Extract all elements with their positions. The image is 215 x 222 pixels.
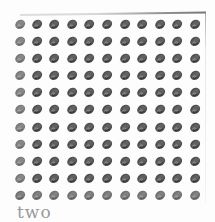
grid-cell bbox=[64, 120, 82, 137]
grid-cell bbox=[11, 137, 29, 154]
shell-icon bbox=[171, 122, 183, 133]
grid-cell bbox=[169, 17, 187, 34]
shell-icon bbox=[154, 19, 166, 30]
grid-cell bbox=[117, 34, 135, 51]
shell-icon bbox=[48, 173, 60, 184]
grid-cell bbox=[152, 171, 170, 188]
shell-icon bbox=[189, 104, 201, 115]
grid-cell bbox=[152, 17, 170, 34]
grid-cell bbox=[152, 137, 170, 154]
shell-icon bbox=[136, 156, 148, 167]
grid-cell bbox=[134, 68, 152, 85]
grid-cell bbox=[81, 34, 99, 51]
shell-icon bbox=[66, 70, 78, 81]
shell-icon bbox=[48, 53, 60, 64]
shell-icon bbox=[31, 104, 43, 115]
shell-icon bbox=[154, 122, 166, 133]
grid-cell bbox=[169, 120, 187, 137]
shell-icon bbox=[83, 19, 95, 30]
grid-cell bbox=[29, 171, 47, 188]
shell-icon bbox=[101, 104, 113, 115]
grid-cell bbox=[134, 102, 152, 119]
grid-cell bbox=[134, 120, 152, 137]
shell-icon bbox=[171, 156, 183, 167]
shell-icon bbox=[83, 139, 95, 150]
shell-icon bbox=[154, 53, 166, 64]
shell-icon bbox=[136, 70, 148, 81]
shell-icon bbox=[31, 70, 43, 81]
shell-icon bbox=[119, 70, 131, 81]
grid-cell bbox=[81, 171, 99, 188]
grid-cell bbox=[46, 51, 64, 68]
shell-icon bbox=[14, 156, 26, 167]
grid-cell bbox=[99, 154, 117, 171]
grid-cell bbox=[187, 102, 205, 119]
shell-icon bbox=[119, 19, 131, 30]
grid-cell bbox=[152, 120, 170, 137]
grid-cell bbox=[46, 154, 64, 171]
grid-cell bbox=[117, 137, 135, 154]
shell-icon bbox=[66, 53, 78, 64]
grid-cell bbox=[169, 188, 187, 205]
shell-icon bbox=[66, 87, 78, 98]
shell-icon bbox=[189, 70, 201, 81]
grid-cell bbox=[46, 17, 64, 34]
shell-icon bbox=[119, 87, 131, 98]
shell-icon bbox=[14, 122, 26, 133]
grid-cell bbox=[64, 68, 82, 85]
shell-icon bbox=[31, 139, 43, 150]
grid-cell bbox=[117, 17, 135, 34]
shell-icon bbox=[48, 190, 60, 201]
grid-cell bbox=[169, 51, 187, 68]
grid-cell bbox=[64, 85, 82, 102]
shell-icon bbox=[189, 19, 201, 30]
grid-cell bbox=[134, 34, 152, 51]
grid-cell bbox=[99, 102, 117, 119]
shell-icon bbox=[31, 87, 43, 98]
grid-cell bbox=[81, 120, 99, 137]
grid-cell bbox=[169, 154, 187, 171]
shell-icon bbox=[101, 156, 113, 167]
grid-cell bbox=[152, 188, 170, 205]
grid-cell bbox=[64, 34, 82, 51]
grid-cell bbox=[46, 102, 64, 119]
shell-icon bbox=[136, 173, 148, 184]
grid-cell bbox=[29, 102, 47, 119]
shell-icon bbox=[14, 70, 26, 81]
shell-icon bbox=[66, 19, 78, 30]
grid-cell bbox=[99, 137, 117, 154]
shell-icon bbox=[154, 70, 166, 81]
shell-icon bbox=[171, 173, 183, 184]
grid-cell bbox=[46, 68, 64, 85]
grid-cell bbox=[187, 154, 205, 171]
shell-icon bbox=[101, 122, 113, 133]
shell-icon bbox=[31, 173, 43, 184]
grid-cell bbox=[11, 120, 29, 137]
shell-icon bbox=[101, 70, 113, 81]
grid-cell bbox=[152, 34, 170, 51]
grid-cell bbox=[134, 137, 152, 154]
grid-cell bbox=[134, 17, 152, 34]
shell-icon bbox=[101, 139, 113, 150]
grid-cell bbox=[64, 17, 82, 34]
grid-cell bbox=[169, 171, 187, 188]
shell-icon bbox=[189, 122, 201, 133]
shell-icon bbox=[154, 139, 166, 150]
shell-icon bbox=[154, 156, 166, 167]
page-caption: two bbox=[17, 202, 52, 222]
grid-cell bbox=[117, 154, 135, 171]
grid-cell bbox=[29, 154, 47, 171]
grid-cell bbox=[117, 120, 135, 137]
grid-cell bbox=[29, 85, 47, 102]
shell-icon bbox=[31, 190, 43, 201]
grid-cell bbox=[81, 17, 99, 34]
shell-icon bbox=[31, 19, 43, 30]
grid-cell bbox=[46, 171, 64, 188]
shell-icon bbox=[83, 87, 95, 98]
shell-icon bbox=[48, 156, 60, 167]
grid-cell bbox=[187, 34, 205, 51]
shell-icon bbox=[189, 190, 201, 201]
shell-icon bbox=[83, 104, 95, 115]
shell-icon bbox=[136, 53, 148, 64]
shell-icon bbox=[101, 36, 113, 47]
